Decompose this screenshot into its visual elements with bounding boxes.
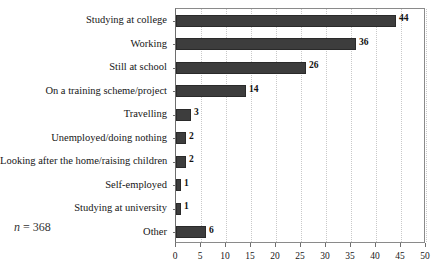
x-axis-tick-label: 30 [320,249,330,263]
y-axis-tick [173,209,176,210]
x-axis-tick [375,243,376,247]
bar-chart-figure: Studying at collegeWorkingStill at schoo… [0,0,444,275]
category-label: Still at school [0,55,171,79]
bar [176,156,186,168]
category-axis-labels: Studying at collegeWorkingStill at schoo… [0,8,171,243]
bar-row: 26 [176,56,424,80]
bar [176,109,191,121]
x-axis-tick-label: 20 [270,249,280,263]
category-label: Self-employed [0,173,171,197]
bar [176,179,181,191]
y-axis-tick [173,91,176,92]
x-axis-tick [325,243,326,247]
y-axis-tick [173,115,176,116]
bar [176,203,181,215]
sample-size-value: 368 [33,220,51,234]
bar-row: 44 [176,9,424,33]
category-label: Unemployed/doing nothing [0,126,171,150]
bar [176,38,356,50]
x-axis-tick-label: 25 [295,249,305,263]
bar-value-label: 3 [194,106,199,118]
bar-value-label: 14 [249,83,259,95]
x-axis-tick [275,243,276,247]
x-axis-tick-label: 0 [173,249,178,263]
bar [176,226,206,238]
x-axis-tick [175,243,176,247]
x-axis-tick [350,243,351,247]
gridline-50 [426,9,427,242]
bar-value-label: 26 [309,59,319,71]
x-axis-tick [225,243,226,247]
x-axis-tick [250,243,251,247]
category-label: On a training scheme/project [0,79,171,103]
bar-row: 1 [176,174,424,198]
category-label: Studying at university [0,196,171,220]
bar [176,85,246,97]
x-axis-tick-labels: 05101520253035404550 [0,249,444,265]
x-axis-tick [300,243,301,247]
y-axis-tick [173,162,176,163]
bar-row: 1 [176,197,424,221]
sample-size-annotation: n = 368 [14,219,51,235]
x-axis-tick [400,243,401,247]
y-axis-tick [173,232,176,233]
bar-value-label: 1 [184,177,189,189]
y-axis-tick [173,21,176,22]
bar [176,132,186,144]
y-axis-tick [173,68,176,69]
bar-value-label: 36 [359,36,369,48]
category-label: Studying at college [0,8,171,32]
y-axis-tick [173,138,176,139]
bar-row: 6 [176,221,424,245]
sample-size-separator: = [20,220,33,234]
x-axis-tick-label: 50 [420,249,430,263]
bar-value-label: 2 [189,130,194,142]
bar-row: 3 [176,103,424,127]
x-axis-tick-label: 40 [370,249,380,263]
bar-row: 2 [176,127,424,151]
x-axis-tick-label: 45 [395,249,405,263]
bar-row: 36 [176,33,424,57]
bar-value-label: 44 [399,12,409,24]
bar-value-label: 1 [184,200,189,212]
bar-row: 14 [176,80,424,104]
category-label: Travelling [0,102,171,126]
x-axis-tick-label: 35 [345,249,355,263]
bar-value-label: 6 [209,224,214,236]
bar-value-label: 2 [189,153,194,165]
x-axis-ticks [175,243,425,248]
bar [176,62,306,74]
x-axis-tick-label: 10 [220,249,230,263]
x-axis-tick-label: 5 [198,249,203,263]
bar-row: 2 [176,150,424,174]
x-axis-tick-label: 15 [245,249,255,263]
y-axis-tick [173,185,176,186]
bar [176,15,396,27]
x-axis-tick [200,243,201,247]
category-label: Working [0,32,171,56]
category-label: Looking after the home/raising children [0,149,171,173]
y-axis-tick [173,44,176,45]
x-axis-tick [425,243,426,247]
plot-area: 44362614322116 [175,8,425,243]
